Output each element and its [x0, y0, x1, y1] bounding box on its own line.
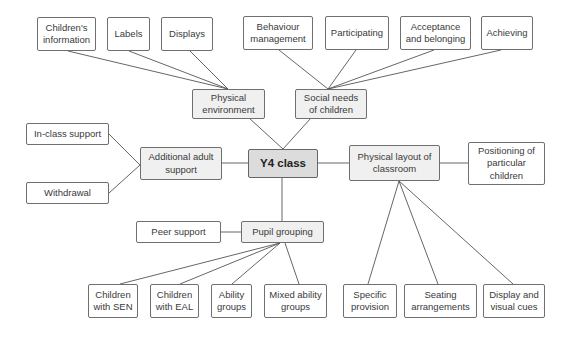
node-layout: Physical layout of classroom — [349, 145, 440, 181]
node-social: Social needs of children — [295, 89, 367, 119]
node-inclass: In-class support — [26, 123, 109, 145]
edge-social-accept — [328, 50, 434, 89]
node-label: Labels — [115, 28, 143, 41]
edge-pupil-eal — [180, 243, 280, 284]
edge-adult-inclass — [109, 134, 140, 165]
node-label: In-class support — [34, 128, 101, 141]
node-label: Positioning of particular children — [478, 145, 535, 183]
node-label: Physical layout of classroom — [358, 151, 432, 176]
node-label: Y4 class — [260, 157, 306, 170]
node-label: Pupil grouping — [252, 226, 313, 239]
node-label: Mixed ability groups — [269, 289, 321, 314]
edge-physenv-chinfo — [68, 51, 228, 89]
edge-physenv-labels — [129, 51, 228, 89]
node-ability: Ability groups — [211, 284, 252, 318]
node-accept: Acceptance and belonging — [400, 16, 471, 50]
node-label: Displays — [169, 28, 205, 41]
node-label: Withdrawal — [44, 187, 91, 200]
node-label: Children with EAL — [156, 289, 194, 314]
node-withdraw: Withdrawal — [26, 182, 109, 204]
node-adult: Additional adult support — [140, 147, 222, 180]
node-label: Peer support — [151, 226, 205, 239]
node-y4: Y4 class — [248, 149, 318, 178]
edge-adult-withdraw — [109, 165, 140, 193]
node-partic: Participating — [325, 16, 389, 50]
node-label: Physical environment — [202, 92, 254, 117]
node-label: Behaviour management — [250, 21, 305, 46]
node-specific: Specific provision — [343, 284, 397, 318]
node-label: Display and visual cues — [489, 289, 539, 314]
node-label: Specific provision — [351, 289, 389, 314]
node-label: Seating arrangements — [411, 289, 470, 314]
node-peer: Peer support — [136, 221, 221, 243]
node-label: Acceptance and belonging — [406, 21, 466, 46]
edge-social-behav — [279, 50, 328, 89]
node-label: Additional adult support — [149, 151, 214, 176]
edge-layout-specific — [368, 181, 399, 284]
edge-social-achiev — [328, 50, 501, 89]
edge-pupil-mixed — [285, 243, 299, 284]
node-mixed: Mixed ability groups — [264, 284, 327, 318]
node-position: Positioning of particular children — [468, 142, 545, 185]
node-displays: Displays — [161, 17, 213, 51]
node-label: Participating — [331, 27, 383, 40]
node-label: Children's information — [43, 22, 90, 47]
node-label: Social needs of children — [304, 92, 358, 117]
node-labels: Labels — [107, 17, 150, 51]
node-seating: Seating arrangements — [404, 284, 477, 318]
node-achiev: Achieving — [481, 16, 533, 50]
node-eal: Children with EAL — [150, 284, 199, 318]
edge-layout-dispcues — [399, 181, 513, 284]
node-pupil: Pupil grouping — [241, 221, 324, 243]
edge-y4-social — [283, 118, 311, 149]
node-behav: Behaviour management — [243, 16, 313, 50]
edge-social-partic — [328, 50, 356, 89]
edge-physenv-displays — [190, 51, 228, 89]
concept-map: Y4 classPhysical environmentSocial needs… — [0, 0, 573, 337]
node-label: Ability groups — [217, 289, 246, 314]
node-label: Children with SEN — [93, 289, 132, 314]
node-label: Achieving — [486, 27, 527, 40]
node-physenv: Physical environment — [192, 89, 265, 119]
node-dispcues: Display and visual cues — [483, 284, 545, 318]
edge-layout-seating — [399, 181, 438, 284]
node-chinfo: Children's information — [37, 17, 96, 51]
edge-y4-physenv — [249, 118, 283, 149]
node-sen: Children with SEN — [88, 284, 138, 318]
